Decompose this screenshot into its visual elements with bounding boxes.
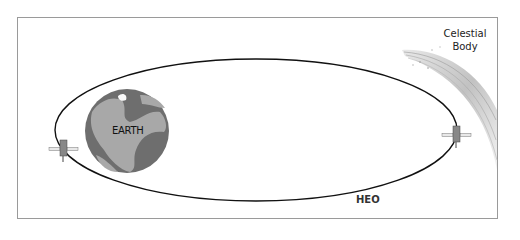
- celestial-body-label: Celestial Body: [440, 27, 490, 53]
- comet-icon: [402, 46, 497, 170]
- celestial-label-line2: Body: [440, 40, 490, 53]
- satellite-icon: [442, 126, 471, 148]
- orbit-label: HEO: [356, 194, 380, 205]
- earth-label: EARTH: [112, 125, 144, 136]
- celestial-label-line1: Celestial: [440, 27, 490, 40]
- satellite-icon: [49, 140, 78, 162]
